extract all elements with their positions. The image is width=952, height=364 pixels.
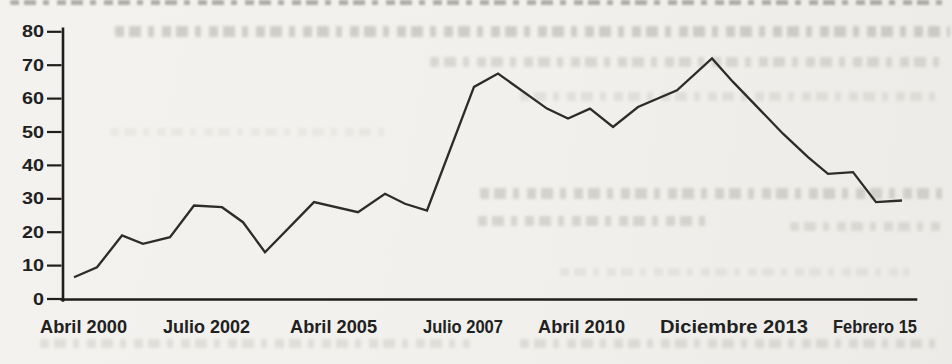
y-tick-label: 10: [22, 257, 44, 274]
x-tick-label: Julio 2002: [163, 316, 250, 337]
y-tick-label: 70: [22, 57, 44, 74]
line-chart-figure: 01020304050607080Abril 2000Julio 2002Abr…: [0, 0, 952, 364]
scanned-page: 01020304050607080Abril 2000Julio 2002Abr…: [0, 0, 952, 364]
data-line: [74, 59, 902, 278]
y-tick-label: 20: [22, 224, 44, 241]
y-tick-label: 80: [22, 23, 44, 40]
y-tick-label: 30: [22, 190, 44, 207]
x-tick-label: Abril 2000: [40, 316, 127, 337]
x-tick-label: Abril 2010: [538, 316, 625, 337]
y-tick-label: 60: [22, 90, 44, 107]
x-tick-label: Julio 2007: [423, 316, 503, 337]
x-tick-label: Febrero 15: [833, 316, 917, 337]
x-tick-label: Diciembre 2013: [660, 316, 808, 337]
x-tick-label: Abril 2005: [290, 316, 377, 337]
y-tick-label: 0: [33, 291, 44, 308]
y-tick-label: 40: [22, 157, 44, 174]
y-tick-label: 50: [22, 124, 44, 141]
